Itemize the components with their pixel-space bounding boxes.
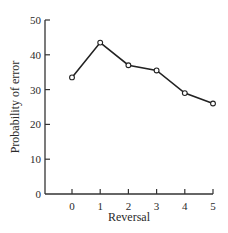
data-series: [70, 40, 216, 106]
x-tick-label: 3: [154, 200, 160, 212]
series-line: [72, 43, 213, 104]
y-tick-label: 20: [30, 118, 42, 130]
x-axis-ticks: 012345: [69, 189, 216, 212]
y-tick-label: 50: [30, 14, 42, 26]
data-point-marker: [126, 63, 131, 68]
data-point-marker: [70, 75, 75, 80]
x-tick-label: 1: [97, 200, 103, 212]
axes: [45, 20, 213, 194]
data-point-marker: [98, 40, 103, 45]
data-point-marker: [154, 68, 159, 73]
x-tick-label: 0: [69, 200, 75, 212]
y-axis-ticks: 01020304050: [30, 14, 50, 200]
y-tick-label: 30: [30, 84, 42, 96]
data-point-marker: [211, 101, 216, 106]
y-axis-title: Probability of error: [8, 61, 22, 154]
x-tick-label: 4: [182, 200, 188, 212]
data-point-marker: [182, 91, 187, 96]
x-axis-title: Reversal: [108, 210, 151, 224]
y-tick-label: 40: [30, 49, 42, 61]
y-tick-label: 0: [36, 188, 42, 200]
line-chart: 01020304050 012345 Reversal Probability …: [0, 0, 228, 233]
x-tick-label: 5: [210, 200, 216, 212]
y-tick-label: 10: [30, 153, 42, 165]
